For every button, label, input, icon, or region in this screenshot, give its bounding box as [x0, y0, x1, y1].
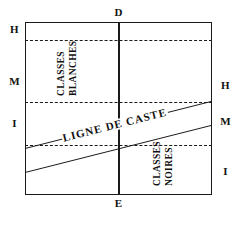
left-scale-label-i: I [8, 118, 21, 129]
left-scale-label-h: H [8, 24, 21, 35]
axis-label-d: D [112, 7, 125, 18]
right-scale-label-i: I [219, 166, 232, 177]
right-scale-label-h: H [219, 80, 232, 91]
caste-line-diagram: LIGNE DE CASTE D E H M I H M I CLASSES B… [0, 0, 246, 225]
caste-band-group [25, 22, 212, 195]
region-label-classes-noires-line2: NOIRES [164, 147, 175, 186]
region-label-classes-blanches-line2: BLANCHES [68, 41, 79, 96]
region-label-classes-noires-line1: CLASSES [152, 141, 163, 186]
region-label-classes-blanches-line1: CLASSES [56, 51, 67, 96]
right-scale-label-m: M [219, 116, 232, 127]
axis-label-e: E [112, 198, 125, 209]
caste-band-lower-line [25, 122, 212, 176]
left-scale-label-m: M [8, 76, 21, 87]
